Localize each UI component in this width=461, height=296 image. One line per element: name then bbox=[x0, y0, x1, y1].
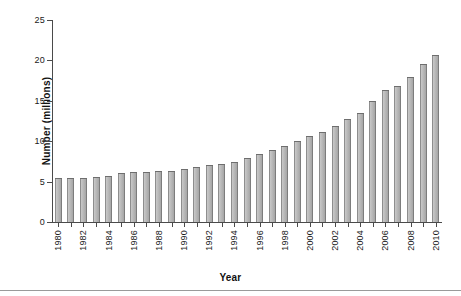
y-axis-tick bbox=[47, 20, 52, 21]
x-axis-tick bbox=[109, 223, 110, 227]
x-axis-tick bbox=[184, 223, 185, 227]
y-axis-tick-label: 0 bbox=[40, 217, 45, 227]
y-axis-tick-label: 20 bbox=[35, 55, 45, 65]
x-axis-tick-label: 2010 bbox=[431, 230, 441, 251]
bar bbox=[332, 126, 339, 222]
x-axis-tick bbox=[423, 223, 424, 227]
x-axis-tick bbox=[335, 223, 336, 227]
x-axis-tick-label: 1980 bbox=[53, 230, 63, 251]
bar bbox=[319, 132, 326, 222]
y-axis-tick-label: 15 bbox=[35, 96, 45, 106]
bar bbox=[218, 164, 225, 222]
bar bbox=[193, 167, 200, 222]
x-axis-tick-label: 1996 bbox=[255, 230, 265, 251]
y-axis-tick bbox=[47, 60, 52, 61]
y-axis-tick-label: 5 bbox=[40, 177, 45, 187]
x-axis-title: Year bbox=[0, 272, 461, 283]
x-axis-tick bbox=[71, 223, 72, 227]
x-axis-tick-label: 1992 bbox=[204, 230, 214, 251]
bar bbox=[256, 154, 263, 222]
x-axis-tick-label: 2002 bbox=[330, 230, 340, 251]
bottom-divider bbox=[0, 290, 461, 291]
y-axis-tick-label: 25 bbox=[35, 15, 45, 25]
x-axis-tick-label: 2008 bbox=[406, 230, 416, 251]
bar bbox=[67, 178, 74, 222]
bar bbox=[269, 150, 276, 222]
x-axis-tick bbox=[436, 223, 437, 227]
bar bbox=[306, 136, 313, 222]
bar bbox=[55, 178, 62, 222]
x-axis-tick bbox=[348, 223, 349, 227]
bar bbox=[394, 86, 401, 222]
x-axis-tick bbox=[222, 223, 223, 227]
x-axis-tick bbox=[310, 223, 311, 227]
x-axis-tick bbox=[247, 223, 248, 227]
x-axis-tick bbox=[385, 223, 386, 227]
bar bbox=[231, 162, 238, 222]
x-axis-tick bbox=[197, 223, 198, 227]
bar bbox=[294, 141, 301, 222]
x-axis-tick-label: 1998 bbox=[280, 230, 290, 251]
x-axis-tick bbox=[373, 223, 374, 227]
x-axis-tick-label: 1988 bbox=[154, 230, 164, 251]
x-axis-tick bbox=[398, 223, 399, 227]
x-axis-tick bbox=[134, 223, 135, 227]
x-axis-tick bbox=[58, 223, 59, 227]
bar bbox=[432, 55, 439, 222]
x-axis-tick bbox=[272, 223, 273, 227]
y-axis-title-container: Number (millions) bbox=[0, 20, 34, 222]
bar bbox=[118, 173, 125, 222]
bar bbox=[93, 177, 100, 222]
x-axis-tick-label: 2004 bbox=[355, 230, 365, 251]
bar-chart-figure: Number (millions) 0510152025 19801982198… bbox=[0, 0, 461, 296]
x-axis-tick bbox=[83, 223, 84, 227]
bar bbox=[168, 171, 175, 222]
x-axis-tick-label: 1986 bbox=[129, 230, 139, 251]
x-axis-tick bbox=[172, 223, 173, 227]
x-axis-tick bbox=[285, 223, 286, 227]
bar bbox=[143, 172, 150, 222]
bar bbox=[206, 165, 213, 222]
bar bbox=[369, 101, 376, 222]
x-axis-tick-label: 2006 bbox=[380, 230, 390, 251]
x-axis-tick bbox=[322, 223, 323, 227]
y-axis-tick bbox=[47, 182, 52, 183]
bar bbox=[281, 146, 288, 222]
bar bbox=[244, 158, 251, 222]
bar bbox=[357, 113, 364, 222]
y-axis-tick bbox=[47, 141, 52, 142]
x-axis-tick bbox=[260, 223, 261, 227]
plot-area: 0510152025 bbox=[52, 20, 442, 222]
y-axis-tick-label: 10 bbox=[35, 136, 45, 146]
x-axis-tick bbox=[411, 223, 412, 227]
bar bbox=[80, 178, 87, 222]
bar bbox=[130, 172, 137, 222]
bar bbox=[382, 90, 389, 223]
x-axis-tick-label: 1984 bbox=[104, 230, 114, 251]
bar bbox=[155, 171, 162, 222]
x-axis-tick-label: 1994 bbox=[229, 230, 239, 251]
x-axis-tick bbox=[234, 223, 235, 227]
y-axis-tick bbox=[47, 101, 52, 102]
bar bbox=[181, 169, 188, 222]
x-axis-tick bbox=[121, 223, 122, 227]
x-axis-tick bbox=[360, 223, 361, 227]
x-axis-tick bbox=[297, 223, 298, 227]
x-axis-tick bbox=[96, 223, 97, 227]
y-axis-title: Number (millions) bbox=[41, 77, 52, 165]
x-axis-tick bbox=[159, 223, 160, 227]
bar bbox=[344, 119, 351, 222]
x-axis-tick bbox=[209, 223, 210, 227]
x-axis-tick-label: 1982 bbox=[78, 230, 88, 251]
bar bbox=[420, 64, 427, 222]
x-axis-tick bbox=[146, 223, 147, 227]
bar bbox=[105, 176, 112, 222]
x-axis-tick-label: 1990 bbox=[179, 230, 189, 251]
bar bbox=[407, 77, 414, 222]
x-axis-tick-label: 2000 bbox=[305, 230, 315, 251]
